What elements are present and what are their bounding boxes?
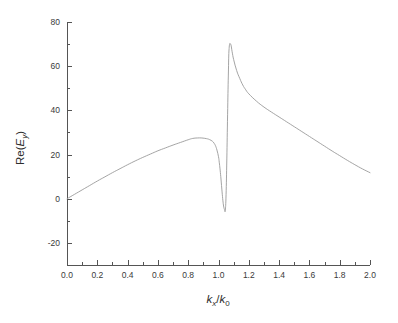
y-tick-label: 40 [51, 105, 61, 115]
x-tick-label: 1.2 [243, 270, 255, 280]
x-tick-label: 1.6 [303, 270, 315, 280]
y-tick-label: 0 [55, 194, 60, 204]
x-tick-label: 1.4 [273, 270, 285, 280]
x-tick-label: 0.2 [91, 270, 103, 280]
x-tick-label: 0.6 [152, 270, 164, 280]
plot-canvas: -20020406080 0.00.20.40.60.81.01.21.41.6… [0, 0, 398, 323]
x-tick-label: 0.0 [61, 270, 73, 280]
y-tick-label: 80 [51, 17, 61, 27]
y-tick-label: -20 [48, 238, 61, 248]
x-tick-label: 1.0 [213, 270, 225, 280]
x-tick-label: 0.8 [182, 270, 194, 280]
x-tick-label: 1.8 [334, 270, 346, 280]
x-tick-label: 0.4 [122, 270, 134, 280]
chart-figure: -20020406080 0.00.20.40.60.81.01.21.41.6… [0, 0, 398, 323]
y-tick-label: 20 [51, 150, 61, 160]
x-tick-label: 2.0 [364, 270, 376, 280]
y-tick-label: 60 [51, 61, 61, 71]
